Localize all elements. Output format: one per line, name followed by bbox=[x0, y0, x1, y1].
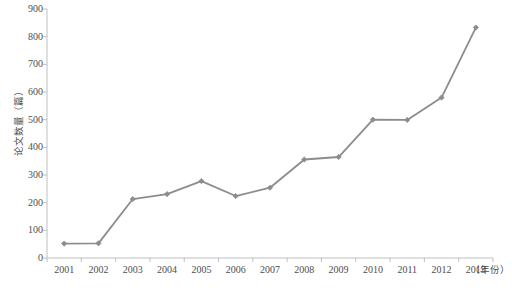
plot-area bbox=[0, 0, 512, 291]
data-series-line bbox=[64, 28, 476, 244]
line-chart: 论文数量（篇） 0100200300400500600700800900 200… bbox=[0, 0, 512, 291]
data-point-marker bbox=[199, 178, 204, 183]
data-point-marker bbox=[164, 191, 169, 196]
data-point-marker bbox=[233, 193, 238, 198]
data-point-marker bbox=[62, 241, 67, 246]
x-axis-tick-labels: 2001200220032004200520062007200820092010… bbox=[0, 264, 512, 284]
x-axis-title: （年份） bbox=[470, 264, 510, 276]
